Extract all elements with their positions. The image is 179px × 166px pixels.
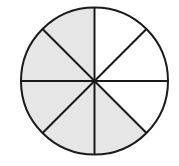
fraction-circle-diagram xyxy=(0,0,179,166)
fraction-circle xyxy=(0,0,179,166)
